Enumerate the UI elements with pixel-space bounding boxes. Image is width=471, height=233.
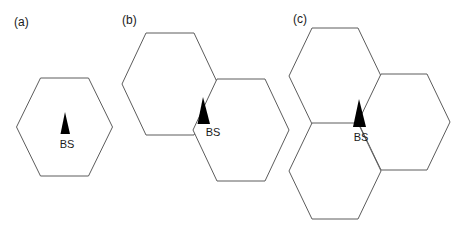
bs-label-a: BS — [60, 138, 75, 150]
cellular-layout-figure: (a) BS (b) BS (c) BS — [0, 0, 471, 233]
bs-label-c: BS — [354, 131, 369, 143]
bs-label-b: BS — [206, 126, 221, 138]
panel-b-label: (b) — [122, 13, 137, 27]
panel-c-label: (c) — [293, 12, 307, 26]
panel-a-label: (a) — [14, 15, 29, 29]
